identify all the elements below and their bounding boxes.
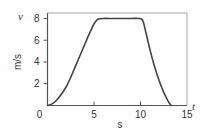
y-variable-label: v [18, 10, 23, 22]
series-line-velocity [48, 18, 172, 105]
x-tick-label: 10 [135, 109, 147, 120]
y-axis-label: m/s [12, 54, 23, 70]
x-tick-label: 5 [91, 109, 97, 120]
y-tick-label: 4 [34, 56, 40, 67]
x-axis-label: s [118, 119, 123, 130]
x-tick-label: 0 [37, 109, 43, 120]
chart: 2468051015 v t m/s s [0, 0, 206, 134]
x-variable-label: t [192, 100, 196, 112]
y-tick-label: 6 [34, 35, 40, 46]
y-tick-label: 8 [34, 13, 40, 24]
y-tick-label: 2 [34, 78, 40, 89]
